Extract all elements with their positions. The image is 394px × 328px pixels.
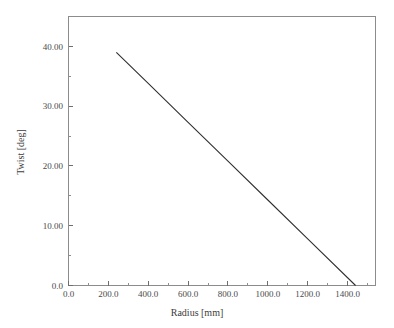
y-tick-label: 30.00 — [43, 101, 64, 111]
x-tick-label: 600.0 — [178, 289, 199, 299]
y-axis-title: Twist [deg] — [15, 129, 26, 175]
chart-figure: 0.0200.0400.0600.0800.01000.01200.01400.… — [0, 0, 394, 328]
y-tick-label: 20.00 — [43, 161, 64, 171]
x-tick-label: 0.0 — [63, 289, 75, 299]
x-tick-label: 1400.0 — [335, 289, 360, 299]
x-tick-label: 1000.0 — [255, 289, 280, 299]
x-axis-title: Radius [mm] — [171, 307, 224, 318]
twist-vs-radius-chart: 0.0200.0400.0600.0800.01000.01200.01400.… — [0, 0, 394, 328]
y-tick-label: 10.00 — [43, 221, 64, 231]
x-tick-label: 1200.0 — [295, 289, 320, 299]
x-tick-label: 400.0 — [138, 289, 159, 299]
y-tick-label: 40.00 — [43, 42, 64, 52]
x-tick-label: 200.0 — [98, 289, 119, 299]
y-tick-label: 0.0 — [52, 281, 64, 291]
x-tick-label: 800.0 — [218, 289, 239, 299]
